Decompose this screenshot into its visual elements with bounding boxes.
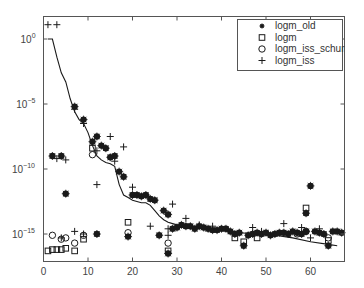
legend: logm_oldlogmlogm_iss_schurlogm_iss bbox=[238, 20, 346, 71]
legend-label: logm_iss_schur bbox=[275, 43, 345, 54]
x-tick-label: 50 bbox=[260, 266, 272, 277]
asterisk-icon bbox=[259, 23, 265, 29]
y-tick-label-exponent: −10 bbox=[23, 162, 35, 169]
x-tick-label: 30 bbox=[171, 266, 183, 277]
data-point bbox=[307, 182, 315, 190]
data-point bbox=[155, 231, 163, 239]
x-tick-label: 40 bbox=[216, 266, 228, 277]
legend-label: logm_iss bbox=[275, 55, 314, 66]
data-point bbox=[93, 230, 101, 238]
x-tick-label: 60 bbox=[305, 266, 317, 277]
data-point bbox=[102, 144, 110, 152]
data-point bbox=[62, 190, 70, 198]
y-tick-label-exponent: −5 bbox=[27, 97, 35, 104]
y-tick-label-base: 10 bbox=[12, 229, 24, 240]
data-point bbox=[93, 133, 101, 141]
x-tick-label: 10 bbox=[82, 266, 94, 277]
data-point bbox=[151, 196, 159, 204]
x-tick-label: 0 bbox=[41, 266, 47, 277]
data-point bbox=[320, 230, 328, 238]
data-point bbox=[164, 211, 172, 219]
y-tick-label-base: 10 bbox=[16, 99, 28, 110]
x-tick-label: 20 bbox=[127, 266, 139, 277]
error-plot: 0102030405060 10010−510−1010−15 logm_old… bbox=[0, 0, 364, 288]
y-tick-label-exponent: −15 bbox=[23, 227, 35, 234]
y-tick-label-base: 10 bbox=[12, 164, 24, 175]
y-tick-label-base: 10 bbox=[21, 34, 33, 45]
data-point bbox=[120, 173, 128, 181]
y-tick-label-exponent: 0 bbox=[32, 32, 36, 39]
legend-label: logm bbox=[275, 32, 297, 43]
legend-label: logm_old bbox=[275, 20, 316, 31]
